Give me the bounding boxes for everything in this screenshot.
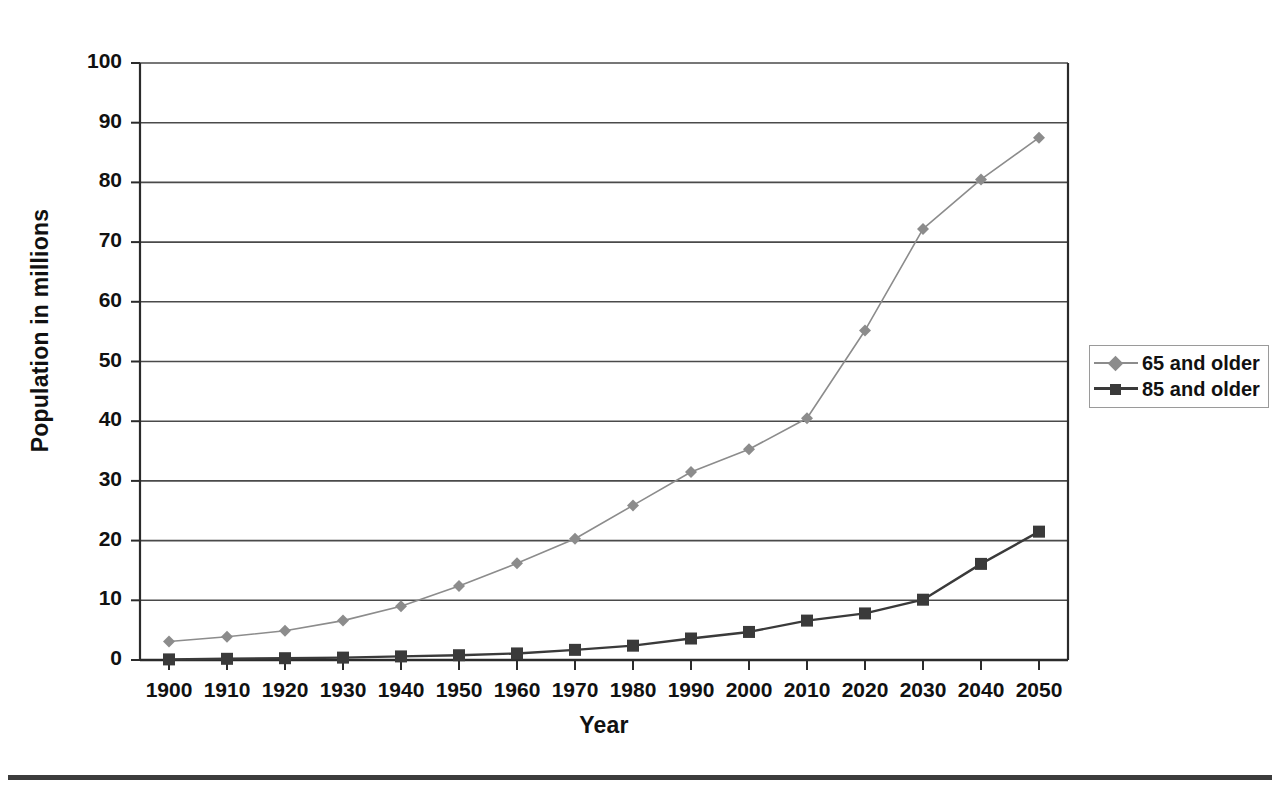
clipped-caption [120,786,1170,796]
y-axis-title: Population in millions [18,0,64,660]
y-axis-title-text: Population in millions [28,208,55,451]
x-axis-title: Year [140,712,1068,739]
x-tick-label: 2050 [1002,678,1076,702]
y-tick-label: 0 [64,646,122,670]
y-tick-label: 100 [64,49,122,73]
x-axis-title-text: Year [579,712,628,738]
footer-divider-rule [8,775,1272,780]
y-tick-label: 60 [64,288,122,312]
series-lines [169,138,1039,660]
y-tick-label: 90 [64,109,122,133]
legend-item-65-and-older: 65 and older [1094,350,1260,376]
y-tick-label: 50 [64,348,122,372]
legend-key-square-icon [1094,380,1138,398]
y-tick-label: 80 [64,168,122,192]
legend-label-65-and-older: 65 and older [1142,353,1260,373]
legend-key-diamond-icon [1094,354,1138,372]
y-tick-label: 30 [64,467,122,491]
series-markers [163,132,1045,666]
chart-legend: 65 and older 85 and older [1089,345,1269,408]
y-tick-label: 40 [64,407,122,431]
line-chart-canvas [0,0,1280,796]
legend-item-85-and-older: 85 and older [1094,376,1260,402]
y-tick-label: 20 [64,527,122,551]
y-axis-ticks [131,63,140,660]
legend-label-85-and-older: 85 and older [1142,379,1260,399]
y-tick-label: 70 [64,228,122,252]
gridlines [140,63,1068,600]
x-axis-ticks [169,660,1039,670]
figure: 0102030405060708090100 19001910192019301… [0,0,1280,796]
y-tick-label: 10 [64,586,122,610]
